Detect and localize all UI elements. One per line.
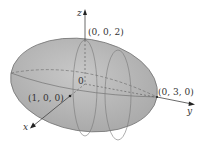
x-axis-label: x <box>23 122 28 132</box>
origin-label: 0 <box>78 76 84 86</box>
ellipsoid-diagram: z y x (0, 0, 2) (0, 3, 0) (1, 0, 0) 0 <box>0 0 201 145</box>
y-axis-label: y <box>186 106 193 116</box>
x-intercept-label: (1, 0, 0) <box>28 93 64 103</box>
z-intercept-label: (0, 0, 2) <box>88 27 124 37</box>
y-intercept-label: (0, 3, 0) <box>158 87 194 97</box>
y-axis <box>157 97 192 104</box>
z-axis-label: z <box>76 8 82 18</box>
z-arrow-icon <box>83 9 87 15</box>
x-arrow-icon <box>30 123 36 129</box>
point-x-intercept <box>69 95 72 98</box>
